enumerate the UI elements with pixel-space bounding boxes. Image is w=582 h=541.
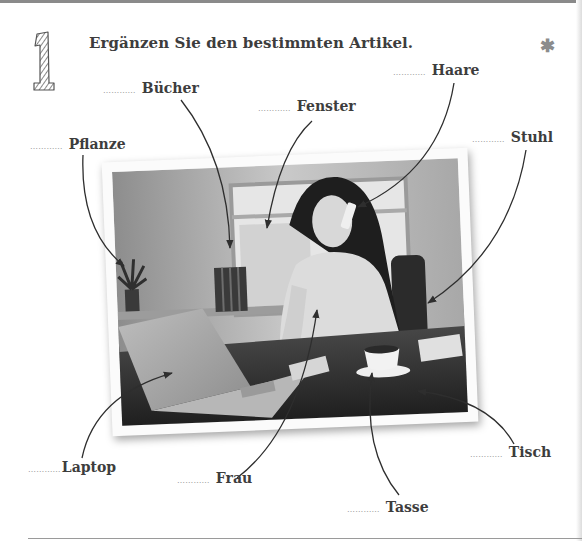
label-word: Tisch — [509, 444, 551, 460]
label-stuhl: ………… Stuhl — [472, 129, 553, 145]
label-laptop: ………… Laptop — [28, 459, 116, 475]
answer-blank[interactable]: ………… — [347, 505, 380, 514]
label-word: Bücher — [142, 80, 199, 96]
label-tasse: ………… Tasse — [347, 499, 429, 515]
arrow-fenster — [267, 121, 312, 228]
label-buecher: ………… Bücher — [103, 80, 199, 96]
answer-blank[interactable]: ………… — [30, 142, 63, 151]
answer-blank[interactable]: ………… — [177, 476, 210, 485]
label-frau: ………… Frau — [177, 470, 252, 486]
arrow-pflanze — [83, 155, 124, 266]
label-word: Frau — [216, 470, 252, 486]
label-word: Pflanze — [69, 136, 126, 152]
label-fenster: ………… Fenster — [258, 98, 356, 114]
label-haare: ………… Haare — [393, 62, 479, 78]
answer-blank[interactable]: ………… — [472, 135, 505, 144]
answer-blank[interactable]: ………… — [258, 104, 291, 113]
label-word: Laptop — [62, 459, 116, 475]
answer-blank[interactable]: ………… — [28, 465, 61, 474]
arrow-frau — [237, 310, 317, 478]
label-word: Fenster — [297, 98, 356, 114]
answer-blank[interactable]: ………… — [470, 450, 503, 459]
arrow-buecher — [181, 100, 230, 248]
label-pflanze: ………… Pflanze — [30, 136, 126, 152]
label-word: Tasse — [386, 499, 429, 515]
label-word: Haare — [432, 62, 480, 78]
label-word: Stuhl — [511, 129, 553, 145]
arrow-stuhl — [428, 150, 526, 303]
arrow-tisch — [418, 391, 514, 444]
bottom-rule — [28, 538, 582, 539]
answer-blank[interactable]: ………… — [103, 86, 136, 95]
label-tisch: ………… Tisch — [470, 444, 551, 460]
answer-blank[interactable]: ………… — [393, 68, 426, 77]
arrow-haare — [358, 83, 454, 207]
arrow-tasse — [370, 373, 399, 495]
arrow-laptop — [82, 373, 172, 458]
